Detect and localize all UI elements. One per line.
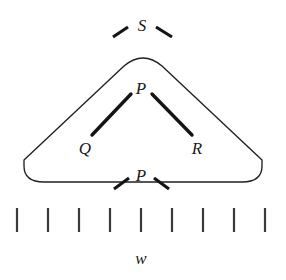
constituent-triangle-outline <box>24 58 262 182</box>
s-right-boundary-tick-icon <box>156 27 172 37</box>
node-label-q: Q <box>79 139 91 158</box>
p-right-boundary-tick-icon <box>154 178 169 189</box>
figure-canvas: S P Q R P w <box>0 0 286 280</box>
node-label-p: P <box>135 79 146 98</box>
s-left-boundary-tick-icon <box>113 27 128 37</box>
p-left-boundary-tick-icon <box>114 178 129 189</box>
axis-label-w: w <box>135 249 147 268</box>
node-label-s: S <box>138 16 147 35</box>
node-label-p-boundary: P <box>135 166 146 185</box>
branch-p-r <box>152 94 192 135</box>
branch-p-q <box>92 94 131 135</box>
node-label-r: R <box>191 139 203 158</box>
syntax-triangle-figure: S P Q R P w <box>0 0 286 280</box>
